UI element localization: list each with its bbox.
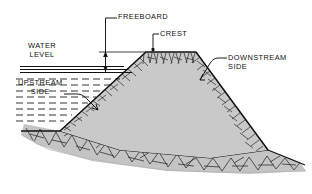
dam-cross-section-diagram: FREEBOARD CREST DOWNSTREAM SIDE WATER LE… xyxy=(0,0,312,194)
diagram-canvas xyxy=(0,0,312,194)
water-level-lines xyxy=(20,67,132,73)
label-water-level: WATER LEVEL xyxy=(28,42,56,59)
crest-leader xyxy=(152,34,159,51)
label-upstream-side: UPSTREAM SIDE xyxy=(18,79,63,96)
label-freeboard: FREEBOARD xyxy=(118,13,168,22)
label-crest: CREST xyxy=(160,30,187,39)
label-downstream-side: DOWNSTREAM SIDE xyxy=(228,54,287,71)
